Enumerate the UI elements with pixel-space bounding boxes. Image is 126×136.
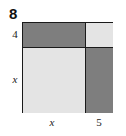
region-top-right <box>86 23 113 47</box>
region-bottom-right <box>86 48 113 113</box>
label-bottom-right-width-5: 5 <box>92 117 106 128</box>
problem-number: 8 <box>9 6 17 21</box>
region-top-left <box>23 23 85 47</box>
label-bottom-left-width-x: x <box>42 117 62 128</box>
label-left-top-height-4: 4 <box>9 29 21 40</box>
region-bottom-left <box>23 48 85 113</box>
area-model-square <box>22 22 113 113</box>
figure-root: 8 4 x x 5 <box>0 0 126 136</box>
label-left-bottom-height-x: x <box>9 74 21 85</box>
